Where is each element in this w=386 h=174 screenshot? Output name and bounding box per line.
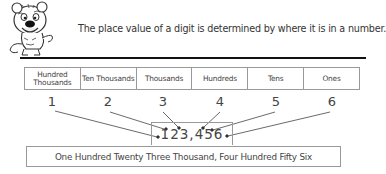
place-value-table: Hundred Thousands Ten Thousands Thousand… [24, 67, 360, 90]
tiger-mascot-icon [4, 0, 72, 60]
intro-text: The place value of a digit is determined… [78, 23, 386, 34]
column-thousands: Thousands [137, 68, 193, 89]
column-hundred-thousands: Hundred Thousands [25, 68, 81, 89]
header-divider [20, 57, 366, 59]
example-number: 123,456 [151, 122, 233, 145]
digit-label-2: 2 [98, 94, 118, 109]
digit-label-6: 6 [322, 94, 342, 109]
column-hundreds: Hundreds [192, 68, 248, 89]
column-ones: Ones [304, 68, 359, 89]
digit-label-1: 1 [42, 94, 62, 109]
column-ten-thousands: Ten Thousands [81, 68, 137, 89]
digit-label-4: 4 [210, 94, 230, 109]
column-tens: Tens [248, 68, 304, 89]
number-in-words: One Hundred Twenty Three Thousand, Four … [26, 146, 341, 167]
digit-label-3: 3 [153, 94, 173, 109]
digit-label-5: 5 [266, 94, 286, 109]
